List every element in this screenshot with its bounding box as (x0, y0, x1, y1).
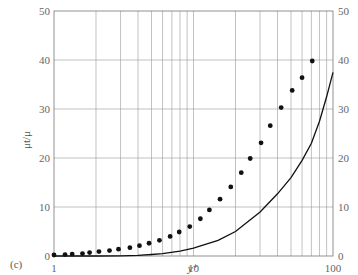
data-point (52, 253, 57, 258)
data-point (168, 234, 173, 239)
data-point (290, 88, 295, 93)
y-tick-label: 40 (338, 54, 350, 66)
chart: 01020304050 01020304050 110100 y⁺ μt/μ (… (0, 0, 358, 275)
y-tick-label: 20 (39, 152, 51, 164)
data-point (239, 170, 244, 175)
y-tick-label: 30 (338, 103, 350, 115)
data-point (268, 123, 273, 128)
y-tick-label: 10 (338, 201, 350, 213)
data-point (80, 251, 85, 256)
data-point (70, 252, 75, 257)
data-point (207, 208, 212, 213)
data-point (116, 247, 121, 252)
data-point (157, 238, 162, 243)
data-point (248, 156, 253, 161)
x-tick-label: 1 (51, 262, 57, 274)
y-tick-label: 30 (39, 103, 51, 115)
data-point (127, 245, 132, 250)
y-tick-label: 20 (338, 152, 350, 164)
data-point (187, 224, 192, 229)
data-point (87, 250, 92, 255)
data-point (177, 230, 182, 235)
data-point (218, 197, 223, 202)
data-point (228, 185, 233, 190)
x-tick-label: 100 (325, 262, 342, 274)
data-point (97, 249, 102, 254)
y-tick-label: 0 (45, 250, 51, 262)
y-axis-right-ticks: 01020304050 (338, 5, 350, 262)
y-axis-label: μt/μ (20, 131, 32, 149)
data-point (300, 75, 305, 80)
x-axis-label: y⁺ (187, 262, 199, 274)
data-point (198, 216, 203, 221)
data-point (279, 105, 284, 110)
data-point (107, 248, 112, 253)
y-tick-label: 50 (338, 5, 350, 17)
y-tick-label: 40 (39, 54, 51, 66)
data-point (259, 140, 264, 145)
y-tick-label: 50 (39, 5, 51, 17)
y-axis-left-ticks: 01020304050 (39, 5, 51, 262)
data-point (137, 243, 142, 248)
grid-lines (54, 11, 333, 256)
panel-label: (c) (10, 258, 23, 271)
data-point (310, 59, 315, 64)
data-point (147, 241, 152, 246)
y-tick-label: 10 (39, 201, 51, 213)
data-point (63, 252, 68, 257)
y-tick-label: 0 (338, 250, 344, 262)
